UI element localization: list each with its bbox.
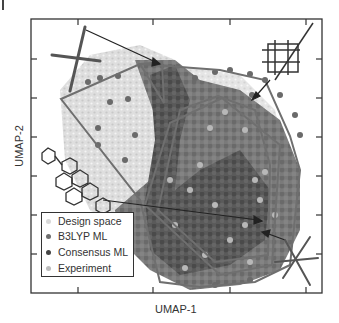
legend-marker-icon bbox=[46, 234, 51, 239]
legend-marker-icon bbox=[46, 250, 51, 255]
legend-item-experiment: Experiment bbox=[46, 260, 111, 276]
legend-label: B3LYP ML bbox=[58, 230, 107, 242]
y-axis-label: UMAP-2 bbox=[13, 121, 25, 171]
molecule-top-right bbox=[262, 23, 313, 80]
legend-item-b3lyp-ml: B3LYP ML bbox=[46, 228, 107, 244]
legend-marker-icon bbox=[46, 219, 51, 224]
legend-label: Experiment bbox=[58, 262, 111, 274]
x-axis-label: UMAP-1 bbox=[155, 303, 197, 315]
legend: Design space B3LYP ML Consensus ML Exper… bbox=[41, 212, 134, 277]
legend-marker-icon bbox=[46, 266, 51, 271]
legend-item-design-space: Design space bbox=[46, 213, 122, 229]
legend-item-consensus-ml: Consensus ML bbox=[46, 244, 128, 260]
legend-label: Consensus ML bbox=[58, 246, 128, 258]
legend-label: Design space bbox=[58, 215, 122, 227]
